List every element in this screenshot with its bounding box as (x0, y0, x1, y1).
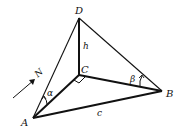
label-A: A (20, 117, 28, 128)
label-h: h (83, 41, 89, 51)
edge-DB (79, 18, 162, 91)
label-c: c (97, 108, 102, 118)
edge-CA (33, 75, 79, 118)
label-D: D (74, 5, 83, 16)
label-alpha: α (47, 88, 53, 98)
edge-CB (79, 75, 162, 91)
label-beta: β (129, 74, 135, 84)
label-C: C (81, 64, 89, 75)
label-B: B (165, 88, 173, 99)
north-arrow-shaft (13, 80, 34, 98)
label-north: N (32, 66, 46, 80)
tetrahedron-diagram: D C A B h c α β N (0, 0, 185, 139)
edge-AD (33, 18, 79, 118)
